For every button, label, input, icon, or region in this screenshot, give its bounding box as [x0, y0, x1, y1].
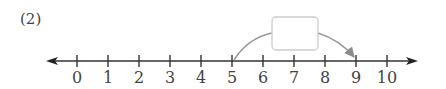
- tick-label-8: 8: [320, 68, 330, 87]
- tick-label-10: 10: [377, 68, 397, 87]
- tick-label-0: 0: [72, 68, 82, 87]
- tick-label-2: 2: [134, 68, 144, 87]
- tick-label-7: 7: [289, 68, 299, 87]
- jump-arc-right: [318, 33, 354, 57]
- tick-label-3: 3: [165, 68, 175, 87]
- jump-arc-left: [234, 33, 272, 60]
- tick-label-5: 5: [227, 68, 237, 87]
- tick-label-9: 9: [351, 68, 361, 87]
- tick-label-4: 4: [196, 68, 206, 87]
- answer-box[interactable]: [272, 17, 318, 50]
- tick-label-1: 1: [103, 68, 113, 87]
- tick-label-6: 6: [258, 68, 268, 87]
- tick-labels: 012345678910: [72, 68, 397, 87]
- number-line-diagram: 012345678910: [0, 0, 446, 89]
